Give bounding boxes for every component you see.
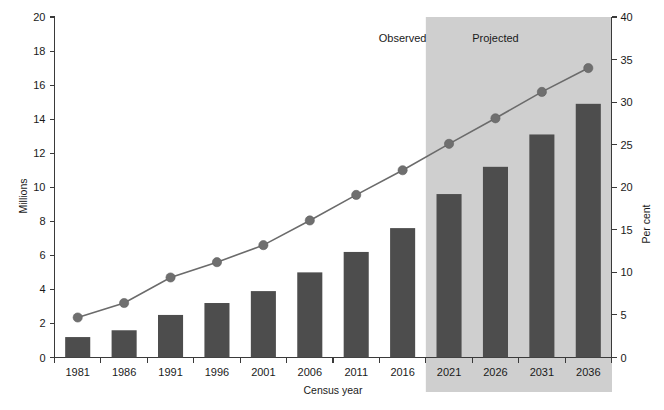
y-axis-right-tick-label: 35 <box>621 54 633 66</box>
y-axis-right-title: Per cent <box>640 204 652 243</box>
line-data-point <box>352 190 361 199</box>
y-axis-left-tick-label: 14 <box>33 113 45 125</box>
bar <box>437 194 462 357</box>
line-data-point <box>537 87 546 96</box>
bar <box>158 315 183 358</box>
y-axis-right-ticks: 0510152025303540 <box>612 11 633 364</box>
line-data-point <box>73 313 82 322</box>
y-axis-left-tick-label: 8 <box>39 215 45 227</box>
line-data-point <box>120 298 129 307</box>
bar <box>112 330 137 357</box>
y-axis-left-tick-label: 16 <box>33 79 45 91</box>
y-axis-right-tick-label: 20 <box>621 181 633 193</box>
x-axis-category-label: 1991 <box>158 366 182 378</box>
y-axis-left-title: Millions <box>17 178 29 213</box>
bar <box>390 228 415 357</box>
x-axis-category-label: 1986 <box>112 366 136 378</box>
y-axis-right-tick-label: 25 <box>621 139 633 151</box>
annotation-observed: Observed <box>379 32 427 44</box>
y-axis-right-tick-label: 5 <box>621 309 627 321</box>
bar <box>344 252 369 358</box>
y-axis-left-tick-label: 4 <box>39 283 45 295</box>
x-axis-category-label: 2011 <box>344 366 368 378</box>
x-axis-category-label: 2001 <box>251 366 275 378</box>
y-axis-left-tick-label: 10 <box>33 181 45 193</box>
y-axis-right-tick-label: 10 <box>621 266 633 278</box>
line-data-point <box>584 63 593 72</box>
line-data-point <box>444 139 453 148</box>
bar <box>297 272 322 357</box>
x-axis-category-label: 2016 <box>390 366 414 378</box>
census-population-chart: Observed Projected 02468101214161820 051… <box>0 0 664 410</box>
chart-container: Observed Projected 02468101214161820 051… <box>0 0 664 410</box>
y-axis-right-tick-label: 30 <box>621 96 633 108</box>
line-data-point <box>259 241 268 250</box>
y-axis-left-tick-label: 0 <box>39 352 45 364</box>
line-data-point <box>398 166 407 175</box>
y-axis-right-tick-label: 15 <box>621 224 633 236</box>
y-axis-left-tick-label: 18 <box>33 45 45 57</box>
bar <box>251 291 276 357</box>
x-axis-category-label: 2031 <box>530 366 554 378</box>
annotation-projected: Projected <box>472 32 518 44</box>
y-axis-right-tick-label: 40 <box>621 11 633 23</box>
x-axis-category-label: 2021 <box>437 366 461 378</box>
x-axis-category-label: 2026 <box>483 366 507 378</box>
line-data-point <box>166 273 175 282</box>
y-axis-right-tick-label: 0 <box>621 352 627 364</box>
y-axis-left-tick-label: 2 <box>39 317 45 329</box>
bar <box>483 167 508 358</box>
y-axis-left-tick-label: 6 <box>39 249 45 261</box>
x-axis-title: Census year <box>304 384 363 396</box>
y-axis-left-tick-label: 12 <box>33 147 45 159</box>
x-axis-category-label: 2006 <box>298 366 322 378</box>
line-data-point <box>212 258 221 267</box>
x-axis-category-label: 2036 <box>576 366 600 378</box>
bar <box>65 337 90 357</box>
bar <box>204 303 229 357</box>
bar <box>529 134 554 357</box>
x-axis-category-label: 1981 <box>65 366 89 378</box>
line-data-point <box>491 114 500 123</box>
bar <box>576 104 601 358</box>
y-axis-left-ticks: 02468101214161820 <box>33 11 54 364</box>
line-data-point <box>305 216 314 225</box>
y-axis-left-tick-label: 20 <box>33 11 45 23</box>
x-axis-category-label: 1996 <box>205 366 229 378</box>
